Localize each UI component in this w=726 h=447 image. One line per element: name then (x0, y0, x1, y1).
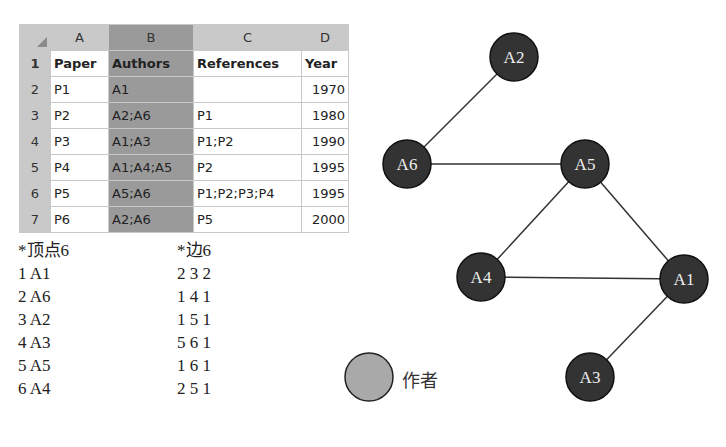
legend-label: 作者 (402, 366, 438, 392)
node-label: A2 (504, 48, 525, 67)
legend-author-icon (345, 353, 393, 401)
node-label: A6 (397, 155, 418, 174)
graph-node-a3: A3 (566, 353, 614, 401)
graph-edges (407, 57, 684, 377)
node-label: A5 (575, 155, 596, 174)
coauthor-graph: A2A6A5A4A1A3 (0, 0, 726, 447)
graph-nodes: A2A6A5A4A1A3 (383, 33, 708, 401)
graph-node-a4: A4 (457, 253, 505, 301)
graph-node-a2: A2 (490, 33, 538, 81)
graph-edge (481, 277, 684, 279)
graph-node-a1: A1 (660, 255, 708, 303)
node-label: A1 (674, 270, 695, 289)
node-label: A3 (580, 368, 601, 387)
node-label: A4 (471, 268, 492, 287)
graph-node-a5: A5 (561, 140, 609, 188)
graph-node-a6: A6 (383, 140, 431, 188)
